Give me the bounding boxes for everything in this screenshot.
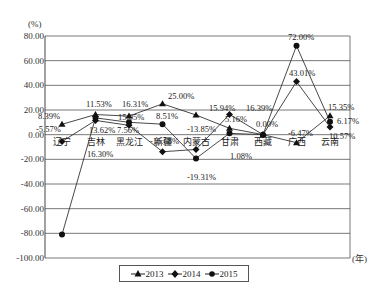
data-label: 15.05%	[118, 112, 144, 122]
data-label: -6.47%	[288, 128, 313, 138]
data-label: 6.17%	[337, 116, 359, 126]
legend-label: 2013	[146, 269, 164, 279]
category-label: 辽宁	[53, 136, 71, 147]
circle-marker	[193, 155, 199, 161]
legend-label: 2015	[220, 269, 238, 279]
data-label: 1.08%	[230, 151, 252, 161]
y-tick-label: -60.00	[21, 204, 45, 214]
legend-item-2014: 2014	[168, 269, 201, 279]
data-label: -19.31%	[187, 172, 216, 182]
category-label: 甘肃	[221, 136, 239, 147]
data-label: 16.30%	[87, 149, 113, 159]
data-label: 25.00%	[168, 91, 194, 101]
data-label: 11.53%	[86, 99, 112, 109]
data-label: 8.39%	[38, 111, 60, 121]
circle-marker-icon	[205, 269, 219, 278]
data-label: 7.56%	[117, 125, 139, 135]
data-label: -16.68%	[150, 136, 179, 146]
y-axis-ticks: 80.0060.0040.0020.000.00-20.00-40.00-60.…	[16, 31, 44, 263]
circle-marker	[227, 130, 233, 136]
category-label: 黑龙江	[116, 136, 143, 147]
data-label: 8.51%	[156, 111, 178, 121]
circle-marker	[327, 119, 333, 125]
category-label: 内蒙古	[183, 136, 210, 147]
data-label: 16.39%	[246, 103, 272, 113]
data-label: 13.62%	[89, 125, 115, 135]
diamond-marker-icon	[168, 269, 182, 278]
legend-item-2013: 2013	[131, 269, 164, 279]
circle-marker	[294, 43, 300, 49]
legend: 2013 2014 2015	[119, 265, 249, 282]
circle-marker	[93, 115, 99, 121]
circle-marker	[160, 121, 166, 127]
data-label: 15.94%	[209, 103, 235, 113]
triangle-marker	[159, 100, 166, 106]
category-label: 吉林	[87, 136, 105, 147]
data-label: -13.85%	[187, 124, 216, 134]
data-label: 15.35%	[328, 102, 354, 112]
x-axis-unit: (年)	[352, 253, 367, 264]
data-label: 10.57%	[329, 131, 355, 141]
legend-item-2015: 2015	[205, 269, 238, 279]
category-label: 西藏	[254, 136, 272, 147]
y-tick-label: 40.00	[24, 80, 45, 90]
y-tick-label: -20.00	[21, 154, 45, 164]
data-label: 43.01%	[289, 68, 315, 78]
data-label: 16.31%	[122, 99, 148, 109]
diamond-marker	[293, 78, 300, 85]
data-label: 5.16%	[225, 114, 247, 124]
circle-marker	[59, 232, 65, 238]
y-tick-label: -40.00	[21, 179, 45, 189]
data-label: -5.57%	[36, 124, 61, 134]
y-tick-label: 80.00	[24, 31, 45, 41]
data-label: 0.00%	[256, 119, 278, 129]
line-chart: 80.0060.0040.0020.000.00-20.00-40.00-60.…	[0, 0, 387, 298]
y-axis-unit: (%)	[28, 19, 42, 29]
triangle-marker-icon	[131, 269, 145, 278]
y-tick-label: 60.00	[24, 56, 45, 66]
legend-label: 2014	[183, 269, 201, 279]
data-label: 72.00%	[288, 32, 314, 42]
y-tick-label: -80.00	[21, 228, 45, 238]
y-tick-label: -100.00	[16, 253, 44, 263]
